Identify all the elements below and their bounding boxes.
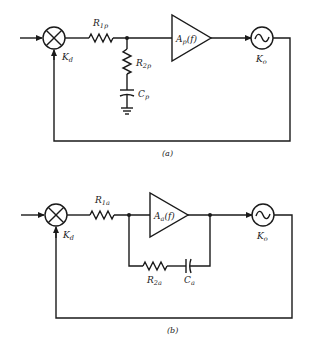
diagram-b: Kd R1a Aa(f) R2a Ca Ko (b): [21, 193, 292, 335]
caption-a: (a): [162, 149, 173, 158]
resistor-r1p-icon: [89, 34, 113, 42]
caption-b: (b): [167, 326, 178, 335]
amplifier-ap-label: Ap(f): [175, 34, 198, 46]
resistor-r2a-label: R2a: [146, 275, 162, 287]
phase-detector-gain-label: Kd: [62, 230, 74, 242]
diagram-a: Kd R1p R2p Cp Ap(f): [20, 15, 290, 158]
resistor-r1a-icon: [90, 211, 114, 219]
vco-icon: [252, 204, 274, 226]
ground-icon: [121, 108, 133, 114]
resistor-r2a-icon: [143, 262, 167, 270]
resistor-r1a-label: R1a: [94, 195, 110, 207]
amplifier-aa-label: Aa(f): [153, 211, 175, 223]
vco-gain-label: Ko: [256, 231, 268, 243]
phase-detector-icon: [43, 27, 65, 49]
pll-loop-filter-diagrams: Kd R1p R2p Cp Ap(f): [0, 0, 309, 343]
phase-detector-icon: [45, 204, 67, 226]
capacitor-cp-label: Cp: [138, 89, 150, 101]
vco-icon: [251, 27, 273, 49]
resistor-r2p-label: R2p: [135, 58, 152, 70]
resistor-r1p-label: R1p: [92, 18, 109, 30]
vco-gain-label: Ko: [255, 54, 267, 66]
phase-detector-gain-label: Kd: [61, 52, 73, 64]
resistor-r2p-icon: [123, 49, 131, 74]
capacitor-ca-label: Ca: [184, 275, 195, 287]
